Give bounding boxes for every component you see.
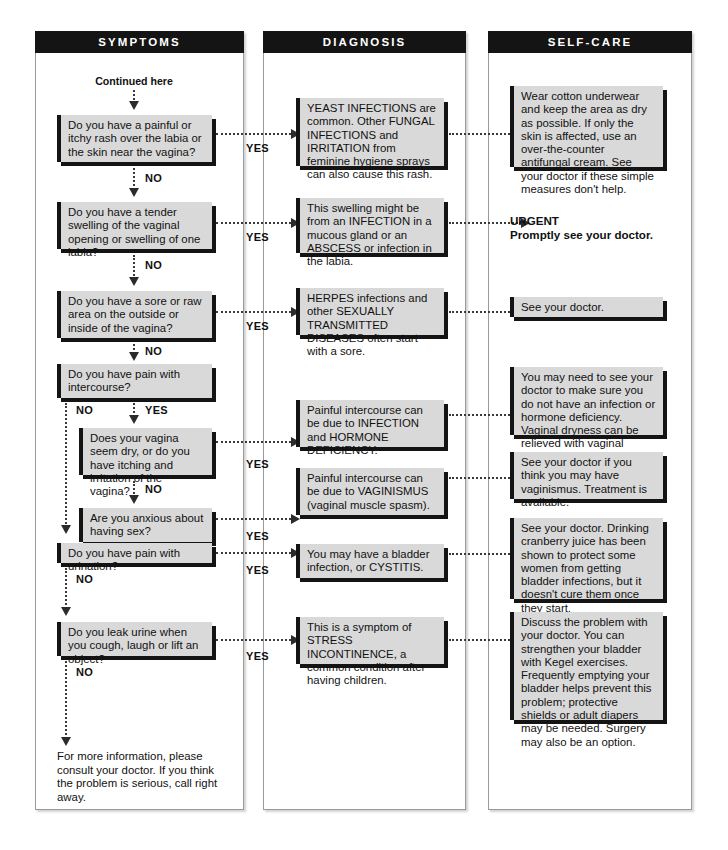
arrow-s4-yes xyxy=(129,415,139,424)
symptom-box-5[interactable]: Does your vagina seem dry, or do you hav… xyxy=(79,428,212,475)
selfcare-box-5[interactable]: You may need to see your doctor to make … xyxy=(510,367,663,435)
arrow-s8-no xyxy=(61,737,71,746)
symptom-box-2[interactable]: Do you have a tender swelling of the vag… xyxy=(57,202,212,249)
symptom-box-3[interactable]: Do you have a sore or raw area on the ou… xyxy=(57,291,212,338)
column-header-selfcare: SELF-CARE xyxy=(488,31,692,53)
arrow-s6-yes xyxy=(291,514,300,524)
yes-label-5: YES xyxy=(246,458,269,470)
symptom-box-1[interactable]: Do you have a painful or itchy rash over… xyxy=(57,115,212,162)
selfcare-box-6[interactable]: See your doctor if you think you may hav… xyxy=(510,452,663,499)
connector-s4-no-spine xyxy=(65,403,67,527)
diagnosis-box-1[interactable]: YEAST INFECTIONS are common. Other FUNGA… xyxy=(296,98,444,166)
diagnosis-box-6[interactable]: Painful intercourse can be due to VAGINI… xyxy=(296,468,444,515)
connector-s1-yes xyxy=(216,133,291,135)
no-label-2: NO xyxy=(145,259,162,271)
diagnosis-box-8[interactable]: This is a symptom of STRESS INCONTINENCE… xyxy=(296,617,444,664)
diagnosis-box-2[interactable]: This swelling might be from an INFECTION… xyxy=(296,198,444,253)
connector-s1-no xyxy=(133,168,135,190)
yes-label-3: YES xyxy=(246,320,269,332)
yes-label-8: YES xyxy=(246,650,269,662)
symptom-box-4[interactable]: Do you have pain with intercourse? xyxy=(57,364,212,398)
connector-s3-yes xyxy=(216,311,291,313)
entry-label: Continued here xyxy=(64,75,204,87)
yes-label-2: YES xyxy=(246,231,269,243)
selfcare-box-3[interactable]: See your doctor. xyxy=(510,297,663,317)
selfcare-urgent-title: URGENT xyxy=(510,214,559,228)
yes-label-7: YES xyxy=(246,564,269,576)
connector-s8-no xyxy=(65,661,67,739)
no-label-4: NO xyxy=(76,404,93,416)
connector-s2-yes xyxy=(216,222,291,224)
arrow-s1-no xyxy=(129,188,139,197)
connector-s7-no xyxy=(65,568,67,609)
connector-s5-yes xyxy=(216,441,291,443)
arrow-s7-no xyxy=(61,607,71,616)
yes-label-6: YES xyxy=(246,530,269,542)
footer-note: For more information, please consult you… xyxy=(57,750,219,804)
connector-s6-yes xyxy=(216,518,291,520)
symptom-box-6[interactable]: Are you anxious about having sex? xyxy=(79,508,212,542)
no-label-8: NO xyxy=(76,666,93,678)
selfcare-box-1[interactable]: Wear cotton underwear and keep the area … xyxy=(510,86,663,167)
diagnosis-box-3[interactable]: HERPES infections and other SEXUALLY TRA… xyxy=(296,288,444,335)
arrow-s2-no xyxy=(129,277,139,286)
no-label-3: NO xyxy=(145,345,162,357)
selfcare-box-8[interactable]: Discuss the problem with your doctor. Yo… xyxy=(510,612,663,720)
diagnosis-box-5[interactable]: Painful intercourse can be due to INFECT… xyxy=(296,400,444,447)
column-header-diagnosis: DIAGNOSIS xyxy=(263,31,466,53)
arrow-s4-no xyxy=(61,525,71,534)
arrow-s3-no xyxy=(129,352,139,361)
selfcare-urgent-text: Promptly see your doctor. xyxy=(510,228,653,242)
selfcare-box-7[interactable]: See your doctor. Drinking cranberry juic… xyxy=(510,518,663,599)
connector-s2-no xyxy=(133,255,135,279)
arrow-s5-no xyxy=(129,495,139,504)
diagnosis-box-7[interactable]: You may have a bladder infection, or CYS… xyxy=(296,544,444,578)
symptom-box-8[interactable]: Do you leak urine when you cough, laugh … xyxy=(57,622,212,656)
no-label-5: NO xyxy=(145,483,162,495)
no-label-7: NO xyxy=(76,573,93,585)
connector-s7-yes xyxy=(216,552,291,554)
arrow-entry xyxy=(129,101,139,110)
column-header-symptoms: SYMPTOMS xyxy=(35,31,244,53)
connector-s8-yes xyxy=(216,639,291,641)
symptom-box-7[interactable]: Do you have pain with urination? xyxy=(57,543,212,563)
yes-label-1: YES xyxy=(246,142,269,154)
yes-label-4: YES xyxy=(145,404,168,416)
no-label-1: NO xyxy=(145,172,162,184)
